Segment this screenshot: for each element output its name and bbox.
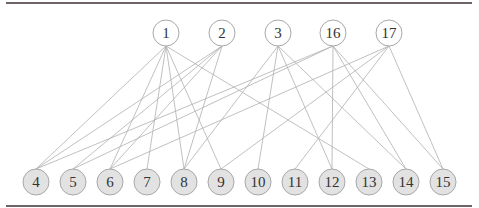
node-5: 5 [60, 169, 86, 195]
node-6: 6 [97, 169, 123, 195]
bottom-rule [6, 205, 472, 207]
edge-17-6 [110, 46, 389, 169]
node-label: 7 [143, 174, 151, 190]
nodes-layer: 1234567891011121314151617 [23, 20, 456, 195]
node-label: 17 [382, 25, 398, 41]
node-2: 2 [209, 20, 235, 46]
node-14: 14 [393, 169, 419, 195]
edge-2-5 [73, 46, 222, 169]
node-label: 12 [325, 174, 340, 190]
node-label: 3 [274, 25, 282, 41]
node-label: 5 [69, 174, 77, 190]
edge-17-9 [221, 46, 389, 169]
node-label: 2 [218, 25, 226, 41]
node-label: 10 [251, 174, 266, 190]
node-label: 11 [288, 174, 302, 190]
edge-16-4 [36, 46, 333, 169]
edge-3-8 [184, 46, 278, 169]
edge-17-11 [295, 46, 389, 169]
node-label: 1 [162, 25, 170, 41]
node-label: 16 [326, 25, 342, 41]
edge-2-4 [36, 46, 222, 169]
node-label: 6 [106, 174, 114, 190]
edge-3-10 [258, 46, 278, 169]
node-label: 4 [32, 174, 40, 190]
node-9: 9 [208, 169, 234, 195]
node-12: 12 [319, 169, 345, 195]
edge-16-14 [333, 46, 406, 169]
edge-1-8 [166, 46, 184, 169]
node-11: 11 [282, 169, 308, 195]
edge-16-5 [73, 46, 333, 169]
node-label: 13 [362, 174, 377, 190]
node-16: 16 [320, 20, 346, 46]
node-10: 10 [245, 169, 271, 195]
edge-2-6 [110, 46, 222, 169]
edge-1-4 [36, 46, 166, 169]
node-13: 13 [356, 169, 382, 195]
node-15: 15 [430, 169, 456, 195]
edge-17-15 [389, 46, 443, 169]
edge-1-7 [147, 46, 166, 169]
edge-16-12 [332, 46, 333, 169]
node-3: 3 [265, 20, 291, 46]
node-label: 14 [399, 174, 415, 190]
node-label: 15 [436, 174, 451, 190]
node-4: 4 [23, 169, 49, 195]
node-8: 8 [171, 169, 197, 195]
node-17: 17 [376, 20, 402, 46]
bipartite-graph: 1234567891011121314151617 [0, 0, 479, 208]
node-label: 8 [180, 174, 188, 190]
node-label: 9 [217, 174, 225, 190]
edges-layer [36, 46, 443, 169]
edge-1-13 [166, 46, 369, 169]
node-7: 7 [134, 169, 160, 195]
edge-1-6 [110, 46, 166, 169]
node-1: 1 [153, 20, 179, 46]
edge-16-15 [333, 46, 443, 169]
